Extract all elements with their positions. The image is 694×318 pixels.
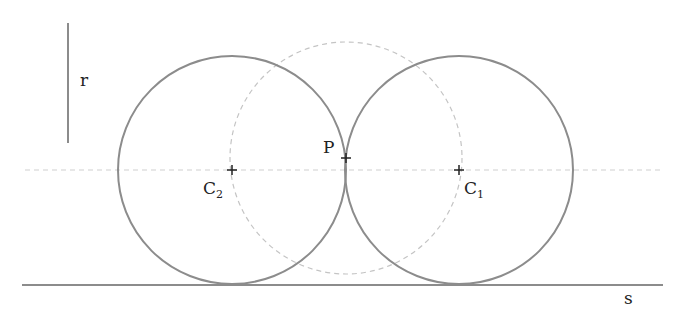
label-s: s (624, 290, 633, 307)
label-c1-sub: 1 (477, 188, 484, 201)
label-c1: C1 (464, 180, 484, 200)
cross-c1 (454, 165, 464, 175)
geometry-figure (0, 0, 694, 318)
cross-c2 (227, 165, 237, 175)
label-c2: C2 (203, 180, 223, 200)
label-c2-sub: 2 (216, 188, 223, 201)
label-p: P (323, 139, 334, 156)
cross-p (341, 153, 351, 163)
label-c2-main: C (203, 178, 216, 198)
label-r: r (80, 72, 88, 89)
label-c1-main: C (464, 178, 477, 198)
